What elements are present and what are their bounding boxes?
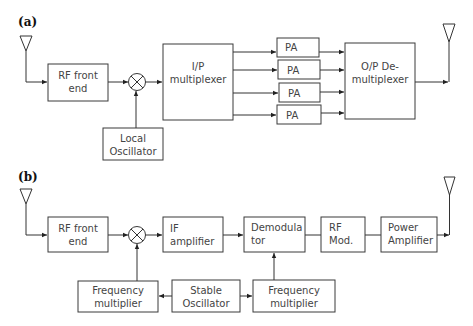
rf-front-end-label-line2: end (69, 83, 88, 94)
power-amplifier-block: Power Amplifier (381, 217, 437, 252)
pa-block-2: PA (278, 60, 320, 79)
svg-text:Mod.: Mod. (329, 235, 353, 246)
svg-text:O/P De-: O/P De- (361, 61, 399, 72)
local-oscillator-block: Local Oscillator (103, 128, 163, 160)
svg-text:end: end (69, 236, 88, 247)
svg-text:RF front: RF front (58, 223, 98, 234)
antenna-icon (444, 177, 455, 235)
svg-text:PA: PA (288, 88, 300, 99)
mixer-icon (129, 74, 146, 91)
svg-text:Stable: Stable (190, 285, 222, 296)
ip-multiplexer-block: I/P multiplexer (163, 44, 233, 120)
svg-text:Power: Power (388, 222, 419, 233)
svg-text:Frequency: Frequency (92, 285, 144, 296)
svg-text:PA: PA (286, 110, 298, 121)
svg-text:PA: PA (287, 65, 299, 76)
demodulator-block: Demodula tor (244, 217, 305, 252)
svg-text:PA: PA (285, 42, 297, 53)
svg-text:Oscillator: Oscillator (182, 298, 230, 309)
svg-text:Local: Local (120, 133, 146, 144)
if-amplifier-block: IF amplifier (163, 217, 223, 252)
antenna-icon (443, 24, 455, 82)
pa-block-3: PA (279, 83, 320, 102)
svg-text:Frequency: Frequency (268, 285, 320, 296)
antenna-icon (20, 189, 32, 235)
svg-text:multiplexer: multiplexer (352, 74, 409, 85)
pa-block-4: PA (277, 105, 321, 124)
svg-text:RF: RF (329, 222, 342, 233)
svg-text:Demodula: Demodula (251, 222, 302, 233)
svg-text:I/P: I/P (192, 61, 204, 72)
frequency-multiplier-right-block: Frequency multiplier (253, 280, 335, 312)
svg-text:tor: tor (251, 235, 266, 246)
stable-oscillator-block: Stable Oscillator (172, 280, 240, 312)
rf-front-end-label-line1: RF front (58, 70, 98, 81)
svg-text:multiplexer: multiplexer (170, 74, 227, 85)
mixer-icon (129, 227, 146, 244)
rf-front-end-block-b: RF front end (48, 217, 108, 252)
rf-front-end-block-a: RF front end (48, 64, 108, 101)
svg-text:Amplifier: Amplifier (388, 235, 434, 246)
svg-text:Oscillator: Oscillator (109, 146, 157, 157)
svg-text:multiplier: multiplier (94, 298, 143, 309)
panel-a-label: (a) (18, 15, 37, 29)
panel-b-label: (b) (18, 170, 38, 184)
svg-text:multiplier: multiplier (270, 298, 319, 309)
antenna-icon (20, 36, 32, 82)
pa-block-1: PA (277, 38, 319, 57)
op-demultiplexer-block: O/P De- multiplexer (345, 43, 415, 119)
svg-text:IF: IF (170, 223, 179, 234)
svg-text:amplifier: amplifier (170, 236, 215, 247)
rf-mod-block: RF Mod. (321, 217, 365, 252)
frequency-multiplier-left-block: Frequency multiplier (78, 281, 158, 312)
